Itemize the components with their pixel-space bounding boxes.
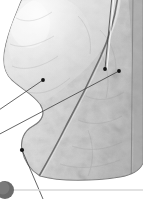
marker-upper-lobe [41, 78, 45, 82]
marker-lower-lobe [117, 69, 121, 73]
marker-inferior-border [20, 148, 24, 152]
anatomy-illustration-canvas [0, 0, 143, 199]
figure-number-badge[interactable] [0, 181, 14, 199]
marker-oblique-fissure [103, 67, 107, 71]
anatomy-figure [0, 0, 143, 199]
